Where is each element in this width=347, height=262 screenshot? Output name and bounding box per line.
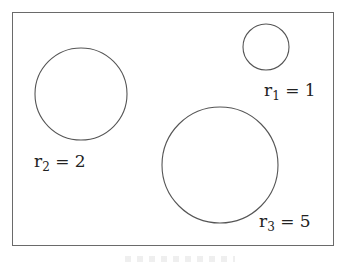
label-eq: = 2 [50, 151, 86, 171]
label-var: r [259, 211, 267, 231]
cropped-caption [125, 256, 235, 262]
label-sub: 1 [272, 89, 280, 103]
label-var: r [34, 151, 42, 171]
label-r1: r1 = 1 [264, 82, 316, 102]
circle-r1 [243, 24, 289, 70]
label-var: r [264, 80, 272, 100]
circle-r2 [35, 48, 127, 140]
label-eq: = 1 [280, 80, 316, 100]
label-eq: = 5 [275, 211, 311, 231]
label-r2: r2 = 2 [34, 153, 86, 173]
label-r3: r3 = 5 [259, 213, 311, 233]
circle-r3 [162, 107, 278, 223]
label-sub: 2 [42, 160, 50, 174]
label-sub: 3 [267, 220, 275, 234]
